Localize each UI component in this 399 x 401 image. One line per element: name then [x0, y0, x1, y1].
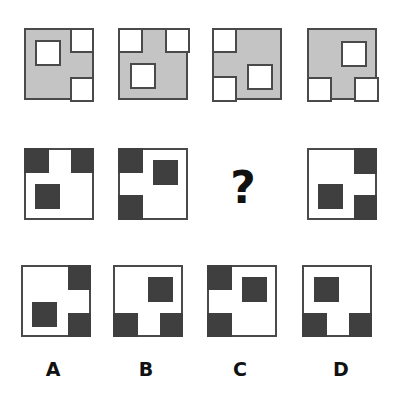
- dark-square-top-left: [24, 148, 49, 173]
- dark-square-bottom-right: [68, 313, 91, 337]
- dark-square-bottom-left: [118, 195, 143, 220]
- white-square-top-right: [165, 28, 190, 53]
- white-square-bottom-right: [70, 77, 94, 102]
- white-square-inner: [341, 41, 367, 67]
- option-a-figure[interactable]: [21, 265, 91, 337]
- dark-square-inner: [148, 277, 173, 302]
- dark-square-inner: [314, 277, 339, 302]
- dark-square-inner: [242, 277, 267, 302]
- white-square-top-right: [70, 28, 94, 53]
- dark-square-bottom-left: [302, 313, 327, 337]
- dark-square-bottom-right: [354, 195, 377, 220]
- question-mark: ?: [226, 166, 260, 210]
- white-square-bottom-left: [212, 76, 237, 102]
- white-square-inner: [130, 63, 156, 89]
- row1-figure-2: [118, 28, 188, 100]
- dark-square-inner: [153, 160, 178, 185]
- option-d-figure[interactable]: [302, 265, 372, 337]
- dark-square-bottom-left: [207, 313, 232, 337]
- white-square-bottom-left: [307, 77, 332, 102]
- row2-figure-4: [307, 148, 377, 220]
- dark-square-top-left: [207, 265, 232, 290]
- white-square-inner: [35, 40, 61, 66]
- dark-square-inner: [35, 184, 60, 209]
- row1-figure-3: [212, 28, 282, 100]
- dark-square-inner: [32, 302, 57, 327]
- dark-square-bottom-left: [113, 313, 138, 337]
- row1-figure-1: [24, 28, 94, 100]
- option-c-figure[interactable]: [207, 265, 277, 337]
- white-square-top-left: [118, 28, 143, 53]
- row2-figure-2: [118, 148, 188, 220]
- dark-square-top-right: [354, 148, 377, 174]
- white-square-inner: [247, 64, 273, 90]
- option-b-label[interactable]: B: [131, 358, 161, 380]
- white-square-bottom-right: [354, 77, 379, 102]
- option-d-label[interactable]: D: [326, 358, 356, 380]
- dark-square-bottom-right: [349, 313, 372, 337]
- dark-square-top-left: [118, 148, 143, 173]
- row2-figure-1: [24, 148, 94, 220]
- white-square-top-left: [212, 28, 237, 53]
- dark-square-inner: [318, 184, 343, 209]
- option-a-label[interactable]: A: [38, 358, 68, 380]
- dark-square-top-right: [68, 265, 91, 290]
- dark-square-top-right: [71, 148, 94, 173]
- option-b-figure[interactable]: [113, 265, 183, 337]
- option-c-label[interactable]: C: [225, 358, 255, 380]
- dark-square-bottom-right: [160, 313, 183, 337]
- row1-figure-4: [307, 28, 377, 100]
